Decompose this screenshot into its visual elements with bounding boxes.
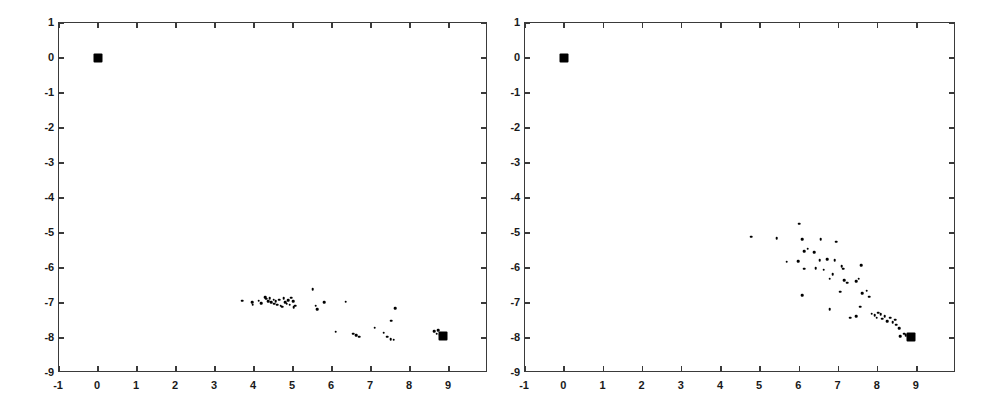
x-axis-tick-label: 9 bbox=[913, 379, 919, 391]
data-point bbox=[879, 313, 882, 316]
x-tick-bottom bbox=[642, 366, 643, 371]
y-tick-right bbox=[949, 92, 954, 93]
x-axis-tick-label: 0 bbox=[560, 379, 566, 391]
x-axis-tick-label: -1 bbox=[519, 379, 528, 391]
x-tick-bottom bbox=[681, 366, 682, 371]
data-point bbox=[831, 273, 834, 276]
y-axis-tick-label: -8 bbox=[502, 331, 520, 343]
x-tick-top bbox=[603, 23, 604, 28]
y-axis-tick-label: -3 bbox=[502, 156, 520, 168]
x-tick-top bbox=[799, 23, 800, 28]
y-tick-left bbox=[525, 23, 530, 24]
y-tick-left bbox=[525, 267, 530, 268]
data-point bbox=[886, 320, 889, 323]
data-point bbox=[861, 292, 864, 295]
data-point bbox=[829, 308, 832, 311]
y-tick-right bbox=[949, 197, 954, 198]
x-tick-top bbox=[916, 23, 917, 28]
y-tick-left bbox=[525, 57, 530, 58]
x-tick-top bbox=[525, 23, 526, 28]
data-point bbox=[899, 335, 902, 338]
y-tick-right bbox=[949, 23, 954, 24]
y-tick-left bbox=[525, 197, 530, 198]
data-point bbox=[803, 250, 806, 253]
x-tick-bottom bbox=[877, 366, 878, 371]
x-tick-bottom bbox=[916, 366, 917, 371]
data-point bbox=[858, 277, 861, 280]
data-point bbox=[813, 251, 816, 254]
data-point bbox=[818, 259, 821, 262]
data-point bbox=[775, 237, 778, 240]
y-tick-left bbox=[525, 337, 530, 338]
x-axis-tick-label: 1 bbox=[599, 379, 605, 391]
y-tick-left bbox=[525, 162, 530, 163]
data-point bbox=[835, 240, 838, 243]
x-axis-tick-label: 5 bbox=[756, 379, 762, 391]
data-point bbox=[865, 289, 868, 292]
x-tick-top bbox=[838, 23, 839, 28]
plot-frame-right bbox=[524, 22, 955, 372]
plot-surface-right bbox=[525, 23, 954, 371]
x-axis-tick-label: 7 bbox=[834, 379, 840, 391]
data-point bbox=[860, 264, 863, 267]
x-tick-top bbox=[681, 23, 682, 28]
x-axis-tick-label: 4 bbox=[717, 379, 723, 391]
x-tick-top bbox=[720, 23, 721, 28]
y-tick-right bbox=[949, 162, 954, 163]
x-axis-tick-label: 8 bbox=[874, 379, 880, 391]
y-axis-tick-label: -4 bbox=[502, 191, 520, 203]
data-point bbox=[846, 281, 849, 284]
x-axis-tick-label: 2 bbox=[639, 379, 645, 391]
y-axis-tick-label: 1 bbox=[502, 16, 520, 28]
y-axis-tick-label: -2 bbox=[502, 121, 520, 133]
data-point bbox=[750, 235, 753, 238]
data-point bbox=[894, 319, 897, 322]
data-point bbox=[839, 291, 842, 294]
y-axis-tick-label: -5 bbox=[502, 226, 520, 238]
data-point bbox=[826, 258, 829, 261]
data-point bbox=[798, 222, 801, 225]
y-tick-right bbox=[949, 127, 954, 128]
x-tick-bottom bbox=[603, 366, 604, 371]
data-point bbox=[898, 327, 901, 330]
y-tick-right bbox=[949, 267, 954, 268]
data-point bbox=[807, 247, 810, 250]
y-tick-left bbox=[525, 127, 530, 128]
y-tick-right bbox=[949, 57, 954, 58]
data-point bbox=[833, 259, 836, 262]
data-point bbox=[876, 316, 879, 319]
x-tick-bottom bbox=[759, 366, 760, 371]
data-point bbox=[842, 267, 845, 270]
y-tick-left bbox=[525, 232, 530, 233]
data-point bbox=[801, 294, 804, 297]
y-axis-tick-label: -9 bbox=[502, 366, 520, 378]
x-tick-top bbox=[877, 23, 878, 28]
data-point bbox=[829, 277, 832, 280]
x-tick-bottom bbox=[799, 366, 800, 371]
data-point bbox=[855, 280, 858, 283]
y-tick-right bbox=[949, 337, 954, 338]
y-tick-right bbox=[949, 232, 954, 233]
data-point bbox=[855, 315, 858, 318]
y-tick-left bbox=[525, 302, 530, 303]
y-tick-left bbox=[525, 92, 530, 93]
data-point bbox=[814, 267, 817, 270]
scatter-plot-figure: -1012345678910-1-2-3-4-5-6-7-8-9-1012345… bbox=[0, 0, 997, 405]
data-point bbox=[859, 305, 862, 308]
x-tick-bottom bbox=[525, 366, 526, 371]
endpoint-marker bbox=[560, 54, 569, 63]
data-point bbox=[820, 238, 823, 241]
data-point bbox=[868, 295, 871, 298]
data-point bbox=[803, 267, 806, 270]
x-axis-tick-label: 6 bbox=[795, 379, 801, 391]
y-tick-right bbox=[949, 302, 954, 303]
x-tick-bottom bbox=[563, 366, 564, 371]
data-point bbox=[891, 321, 894, 324]
y-axis-tick-label: -7 bbox=[502, 296, 520, 308]
x-tick-top bbox=[759, 23, 760, 28]
data-point bbox=[849, 316, 852, 319]
x-tick-top bbox=[563, 23, 564, 28]
data-point bbox=[822, 268, 825, 271]
scatter-panel-right: -1012345678910-1-2-3-4-5-6-7-8-9 bbox=[0, 0, 997, 405]
x-tick-bottom bbox=[838, 366, 839, 371]
